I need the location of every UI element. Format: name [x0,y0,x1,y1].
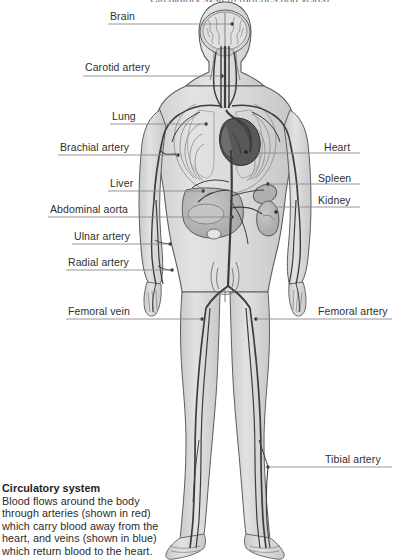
label-carotid-artery: Carotid artery [85,61,150,73]
label-radial-artery: Radial artery [68,256,129,268]
label-spleen: Spleen [318,172,351,184]
circulatory-system-illustration [0,0,396,560]
label-heart: Heart [324,141,350,153]
label-tibial-artery: Tibial artery [325,453,381,465]
label-abdominal-aorta: Abdominal aorta [50,203,128,215]
caption-body: Blood flows around the body through arte… [2,495,178,558]
label-brain: Brain [110,10,135,22]
label-liver: Liver [110,177,133,189]
kidney-organ [257,201,279,236]
label-femoral-artery: Femoral artery [318,305,388,317]
caption-title: Circulatory system [2,482,178,495]
label-brachial-artery: Brachial artery [60,141,129,153]
diagram-canvas: Circulatory system (arteries and veins) [0,0,396,560]
label-kidney: Kidney [318,194,351,206]
label-femoral-vein: Femoral vein [68,305,130,317]
figure-caption: Circulatory system Blood flows around th… [2,482,178,558]
label-lung: Lung [112,110,136,122]
label-ulnar-artery: Ulnar artery [74,230,130,242]
